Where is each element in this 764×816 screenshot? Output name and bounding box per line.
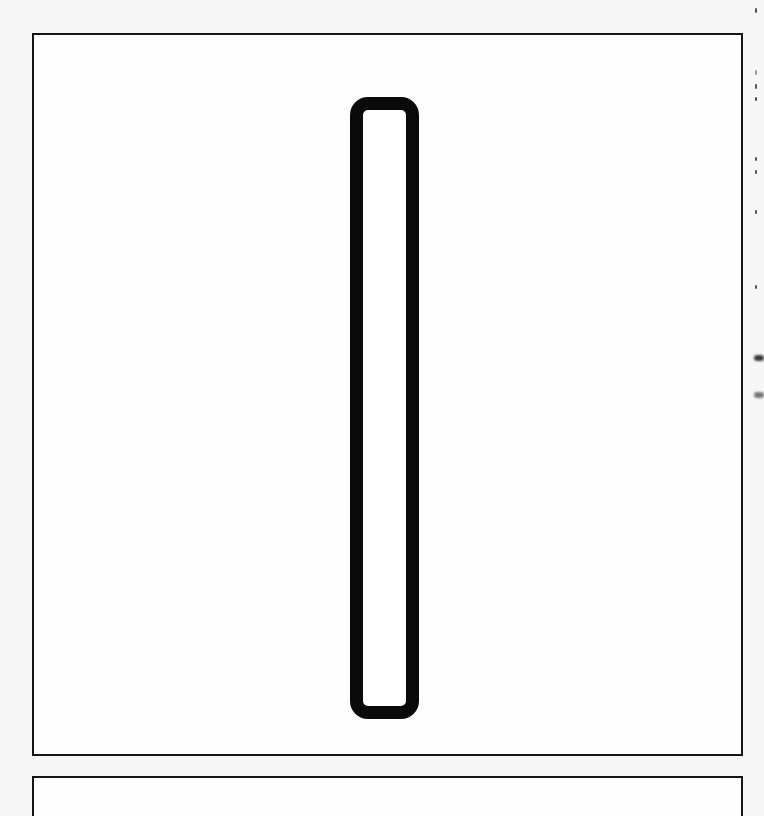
edge-mark [755, 210, 757, 214]
edge-mark [755, 8, 757, 13]
edge-blob [754, 355, 764, 361]
edge-mark [755, 285, 757, 289]
lower-frame [32, 776, 743, 816]
edge-mark [755, 157, 757, 161]
vertical-rounded-bar-shape [350, 97, 419, 719]
edge-mark [755, 170, 757, 174]
edge-blob [754, 392, 764, 398]
right-edge-artifacts [752, 0, 764, 420]
edge-mark [755, 70, 757, 75]
edge-mark [755, 97, 757, 101]
edge-mark [755, 84, 757, 89]
